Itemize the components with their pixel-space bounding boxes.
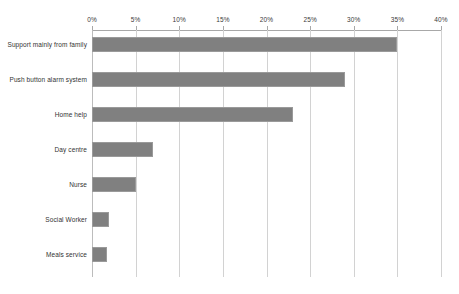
x-tick-label: 35% <box>391 16 404 23</box>
x-tick-label: 0% <box>87 16 97 23</box>
bar[interactable] <box>92 107 293 122</box>
gridline <box>354 30 355 277</box>
gridline <box>223 30 224 277</box>
gridline <box>310 30 311 277</box>
bar[interactable] <box>92 142 153 157</box>
bar[interactable] <box>92 177 136 192</box>
category-label: Home help <box>0 111 87 118</box>
x-tick-label: 15% <box>216 16 229 23</box>
tick-mark <box>441 26 442 30</box>
gridline <box>179 30 180 277</box>
bar-chart: 0%5%10%15%20%25%30%35%40% Support mainly… <box>0 0 459 294</box>
tick-mark <box>223 26 224 30</box>
category-label: Social Worker <box>0 216 87 223</box>
bar[interactable] <box>92 212 109 227</box>
tick-mark <box>310 26 311 30</box>
category-label: Meals service <box>0 251 87 258</box>
tick-mark <box>92 26 93 30</box>
category-label: Nurse <box>0 181 87 188</box>
x-tick-label: 5% <box>131 16 141 23</box>
gridline <box>397 30 398 277</box>
tick-mark <box>267 26 268 30</box>
tick-mark <box>136 26 137 30</box>
x-tick-label: 20% <box>260 16 273 23</box>
x-tick-label: 25% <box>303 16 316 23</box>
bar[interactable] <box>92 37 397 52</box>
bar[interactable] <box>92 72 345 87</box>
plot-area <box>92 30 441 277</box>
gridline <box>441 30 442 277</box>
gridline <box>267 30 268 277</box>
x-tick-label: 40% <box>434 16 447 23</box>
x-tick-label: 10% <box>173 16 186 23</box>
tick-mark <box>397 26 398 30</box>
category-label: Day centre <box>0 146 87 153</box>
tick-mark <box>179 26 180 30</box>
tick-mark <box>354 26 355 30</box>
category-label: Support mainly from family <box>0 41 87 48</box>
category-label: Push button alarm system <box>0 76 87 83</box>
x-tick-label: 30% <box>347 16 360 23</box>
bar[interactable] <box>92 247 107 262</box>
